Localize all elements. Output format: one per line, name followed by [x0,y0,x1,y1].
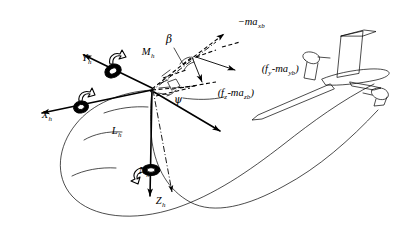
beta-angle-label: β [165,33,172,45]
y-axis-label: Yh [58,52,110,66]
l-moment-glyph [72,88,95,114]
inertial-x-force-subscript: xb [257,22,265,30]
tow-cable [60,84,378,216]
svg-text:Zh: Zh [132,195,184,209]
inertial-x-force-arrow [183,34,224,65]
glider-aircraft [252,30,389,120]
svg-text:−maxb: −maxb [214,16,283,30]
vertical-force-close: ) [250,87,255,99]
inertial-x-force-text: −ma [238,16,258,27]
svg-text:Nh: Nh [115,165,168,179]
inertial-x-force-label: −maxb [214,16,283,30]
psi-angle-label: ψ [174,93,183,105]
z-axis-label: Zh [132,195,184,209]
psi-angle-symbol: ψ [174,93,183,105]
svg-text:Xh: Xh [18,109,70,123]
l-moment-label-text: L [111,125,118,136]
diagram-root: Yh Xh Zh Mh Lh [0,0,399,234]
svg-text:Yh: Yh [58,52,110,66]
projection-construction-lines [152,57,196,96]
lateral-force-arrow [196,42,240,70]
l-moment-label: Lh [88,125,140,139]
n-moment-label: Nh [115,165,168,179]
svg-text:(fz-mazb): (fz-mazb) [194,87,272,101]
beta-angle-symbol: β [165,33,172,45]
l-moment-label-subscript: h [118,131,122,139]
lateral-force-close: ) [294,63,299,75]
x-axis-label-text: X [41,109,49,120]
m-moment-label-subscript: h [151,52,155,60]
lateral-force-mid: -ma [272,63,288,74]
x-axis [42,90,152,113]
svg-text:Mh: Mh [118,46,173,60]
lateral-force-sub2: yb [287,69,295,77]
force-moment-diagram: Yh Xh Zh Mh Lh [0,0,399,234]
vertical-force-label: (fz-mazb) [194,87,272,101]
m-moment-label: Mh [118,46,173,60]
vertical-force-mid: -ma [227,87,243,98]
y-axis-label-subscript: h [88,58,92,66]
n-moment-label-subscript: h [146,171,150,179]
x-axis-label-subscript: h [49,115,53,123]
svg-text:Lh: Lh [88,125,140,139]
x-axis-label: Xh [18,109,70,123]
svg-text:(fy-mayb): (fy-mayb) [238,63,317,77]
lateral-force-label: (fy-mayb) [238,63,317,77]
z-axis-label-text: Z [156,195,162,206]
z-axis-label-subscript: h [162,201,166,209]
